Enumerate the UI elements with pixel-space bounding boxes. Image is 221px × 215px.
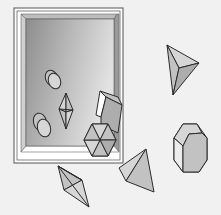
illustration-canvas	[0, 0, 221, 215]
tetrahedron-middle	[119, 149, 154, 192]
tetrahedron-upper-right	[167, 45, 199, 95]
bipyramid-bottom	[58, 166, 89, 207]
octagonal-crystal	[174, 124, 207, 172]
